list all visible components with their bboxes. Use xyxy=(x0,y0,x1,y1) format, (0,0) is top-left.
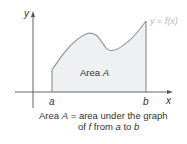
y-axis-arrow-icon xyxy=(31,11,35,17)
caption-line-1: Area A = area under the graph xyxy=(39,110,168,121)
x-axis-arrow-icon xyxy=(167,90,173,94)
bound-label-b: b xyxy=(143,96,149,107)
shaded-area xyxy=(52,21,146,92)
x-axis-label: x xyxy=(165,95,172,106)
y-axis-label: y xyxy=(23,8,30,19)
bound-label-a: a xyxy=(49,96,55,107)
caption-line-2: of f from a to b xyxy=(78,121,139,132)
curve-label: y = f(x) xyxy=(149,16,178,26)
region-label: Area A xyxy=(80,67,109,78)
